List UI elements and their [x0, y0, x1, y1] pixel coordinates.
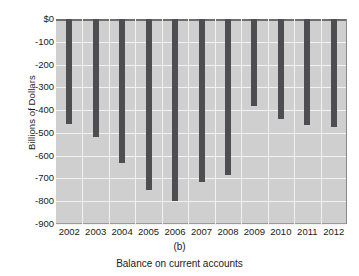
chart-caption: Balance on current accounts [0, 258, 359, 269]
gridline-vertical [321, 19, 322, 224]
bar-2005 [146, 19, 152, 190]
y-tick-label: -700 [14, 173, 54, 183]
plot-area [56, 19, 347, 224]
gridline-horizontal [56, 201, 346, 202]
bar-2002 [66, 19, 72, 124]
y-tick-label: $0 [14, 14, 54, 24]
y-axis-tick-labels: $0-100-200-300-400-500-600-700-800-900 [14, 14, 54, 225]
gridline-vertical [268, 19, 269, 224]
bar-2008 [225, 19, 231, 175]
y-tick-label: -200 [14, 60, 54, 70]
bar-2007 [199, 19, 205, 182]
gridline-vertical [215, 19, 216, 224]
y-tick-label: -300 [14, 82, 54, 92]
x-axis-tick-labels: 2002200320042005200620072008200920102011… [56, 226, 347, 240]
y-tick-label: -100 [14, 37, 54, 47]
gridline-vertical [162, 19, 163, 224]
bar-2012 [331, 19, 337, 127]
y-tick-label: -900 [14, 219, 54, 229]
gridline-vertical [294, 19, 295, 224]
panel-letter: (b) [0, 241, 359, 252]
y-tick-label: -400 [14, 105, 54, 115]
gridline-vertical [241, 19, 242, 224]
bar-2011 [304, 19, 310, 125]
gridline-vertical [109, 19, 110, 224]
gridline-vertical [82, 19, 83, 224]
bar-2006 [172, 19, 178, 201]
bar-2004 [119, 19, 125, 163]
gridline-vertical [135, 19, 136, 224]
gridline-vertical [188, 19, 189, 224]
chart-figure: Billions of Dollars $0-100-200-300-400-5… [0, 0, 359, 276]
x-tick-label: 2012 [317, 226, 351, 237]
bar-2009 [251, 19, 257, 106]
y-tick-label: -600 [14, 151, 54, 161]
y-tick-label: -500 [14, 128, 54, 138]
y-tick-label: -800 [14, 196, 54, 206]
bar-2003 [93, 19, 99, 137]
gridline-horizontal [56, 224, 346, 225]
bar-2010 [278, 19, 284, 119]
